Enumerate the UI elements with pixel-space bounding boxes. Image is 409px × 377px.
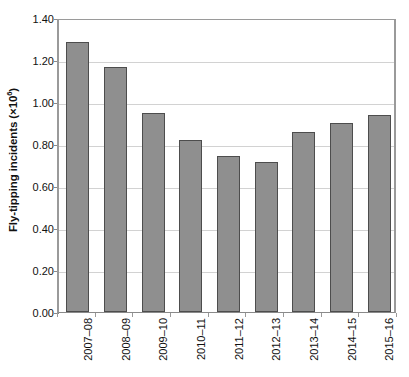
x-tick-mark <box>283 313 284 317</box>
x-tick-mark <box>208 313 209 317</box>
y-tick-label: 1.00 <box>20 97 54 109</box>
x-axis-tick-labels: 2007–082008–092009–102010–112011–122012–… <box>57 318 396 377</box>
x-tick-label: 2012–13 <box>269 318 283 377</box>
y-tick-label: 1.40 <box>20 13 54 25</box>
bar <box>104 67 127 312</box>
x-tick-label: 2010–11 <box>194 318 208 377</box>
x-tick-mark <box>57 313 58 317</box>
x-tick-label: 2015–16 <box>382 318 396 377</box>
x-tick-label: 2009–10 <box>156 318 170 377</box>
bar-chart-figure: Fly-tipping incidents (×106) 0.000.200.4… <box>0 0 409 377</box>
x-tick-mark <box>132 313 133 317</box>
x-tick-label: 2013–14 <box>307 318 321 377</box>
bar <box>368 115 391 312</box>
x-tick-label: 2008–09 <box>119 318 133 377</box>
bars-layer <box>59 20 394 312</box>
x-tick-label: 2014–15 <box>345 318 359 377</box>
bar <box>66 42 89 312</box>
x-tick-mark <box>321 313 322 317</box>
bar <box>330 123 353 312</box>
bar <box>217 156 240 312</box>
plot-area <box>57 19 396 313</box>
y-axis-tick-labels: 0.000.200.400.600.801.001.201.40 <box>20 19 54 313</box>
x-tick-mark <box>396 313 397 317</box>
x-tick-label: 2011–12 <box>232 318 246 377</box>
x-tick-mark <box>95 313 96 317</box>
y-axis-title-superscript: 6 <box>5 92 14 96</box>
y-tick-label: 0.80 <box>20 139 54 151</box>
x-tick-label: 2007–08 <box>81 318 95 377</box>
bar <box>255 162 278 312</box>
y-axis-title-text: Fly-tipping incidents (×106) <box>7 88 19 232</box>
y-tick-label: 0.00 <box>20 307 54 319</box>
y-tick-label: 0.40 <box>20 223 54 235</box>
bar <box>179 140 202 312</box>
y-axis-title-prefix: Fly-tipping incidents (×10 <box>7 96 19 232</box>
x-tick-mark <box>245 313 246 317</box>
x-tick-mark <box>358 313 359 317</box>
y-tick-label: 0.20 <box>20 265 54 277</box>
bar <box>292 132 315 312</box>
y-tick-label: 1.20 <box>20 55 54 67</box>
bar <box>142 113 165 313</box>
y-tick-label: 0.60 <box>20 181 54 193</box>
y-axis-title-suffix: ) <box>7 88 19 92</box>
x-tick-mark <box>170 313 171 317</box>
